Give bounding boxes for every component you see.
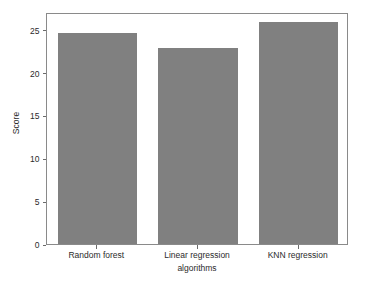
y-tick-label: 15 [30,112,42,121]
bar [158,48,238,244]
x-tick-mark [96,245,97,249]
x-axis-title: algorithms [46,263,348,274]
y-tick-label: 20 [30,70,42,79]
x-tick-label: Random forest [68,250,124,261]
y-axis-ticks: 0510152025 [0,0,46,290]
x-tick-label: KNN regression [268,250,328,261]
bar [259,22,339,244]
y-tick-label: 0 [35,241,43,250]
y-tick-label: 5 [35,198,43,207]
bar [58,33,138,244]
x-tick-mark [298,245,299,249]
x-axis-title-label: algorithms [177,263,216,273]
x-tick-mark [197,245,198,249]
y-tick-label: 10 [30,155,42,164]
plot-area [46,13,348,245]
bar-chart-figure: Score 0510152025 Random forestLinear reg… [0,0,366,290]
x-tick-label: Linear regression [164,250,230,261]
y-tick-label: 25 [30,27,42,36]
